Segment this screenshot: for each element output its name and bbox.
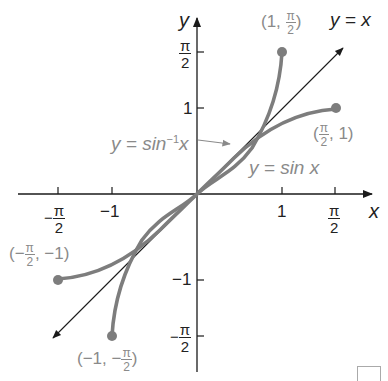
ytick-neg-pi-over-2: −π2 [170,322,191,354]
arcsin-superscript: −1 [166,133,179,145]
paren-close: , 1) [329,124,354,143]
pi-symbol: π [286,10,296,23]
pi-symbol: π [328,203,340,219]
xtick-neg-pi-over-2: −π2 [44,203,65,235]
paren-open: (1, [261,12,286,31]
two: 2 [181,338,189,354]
corner-badge-icon [357,366,381,381]
identity-line-label: y = x [330,10,371,29]
two: 2 [123,360,130,373]
point-label-neg-1-neg-pi2: (−1, −π2) [77,347,137,373]
endpoint-neg-pi2-neg-1 [53,275,63,285]
ytick-pi-over-2: π2 [179,38,191,70]
pi-symbol: π [179,322,191,338]
paren-close: ) [296,12,302,31]
paren-open: (−1, − [77,349,121,368]
paren-close: ) [132,349,138,368]
two: 2 [55,219,63,235]
pi-symbol: π [121,347,131,360]
pi-symbol: π [179,38,191,54]
y-axis-label: y [179,10,189,30]
endpoint-pi2-1 [331,103,341,113]
arcsin-label: y = sin−1x [111,134,189,153]
point-label-1-pi2: (1, π2) [261,10,302,36]
x-axis-label: x [369,201,379,221]
two: 2 [287,23,294,36]
arcsin-variable: x [179,133,189,154]
two: 2 [181,54,189,70]
point-label-neg-pi2-neg-1: (−π2, −1) [9,242,69,268]
two: 2 [320,135,327,148]
ytick-1: 1 [183,100,192,117]
sin-label: y = sin x [249,158,319,177]
minus-sign: − [44,209,53,226]
pi-symbol: π [53,203,65,219]
pi-symbol: π [25,242,35,255]
two: 2 [26,255,33,268]
pi-symbol: π [319,122,329,135]
arcsin-prefix: y = sin [111,133,166,154]
xtick-pi-over-2: π2 [328,203,340,235]
two: 2 [330,219,338,235]
endpoint-neg-1-neg-pi2 [107,331,117,341]
point-label-pi2-1: (π2, 1) [313,122,354,148]
paren-open: (− [9,244,25,263]
arcsin-label-pointer [198,140,230,144]
paren-close: , −1) [35,244,70,263]
minus-sign: − [170,328,179,345]
xtick-1: 1 [277,203,286,220]
xtick-neg-1: −1 [100,203,119,220]
ytick-neg-1: −1 [172,271,191,288]
endpoint-1-pi2 [277,47,287,57]
